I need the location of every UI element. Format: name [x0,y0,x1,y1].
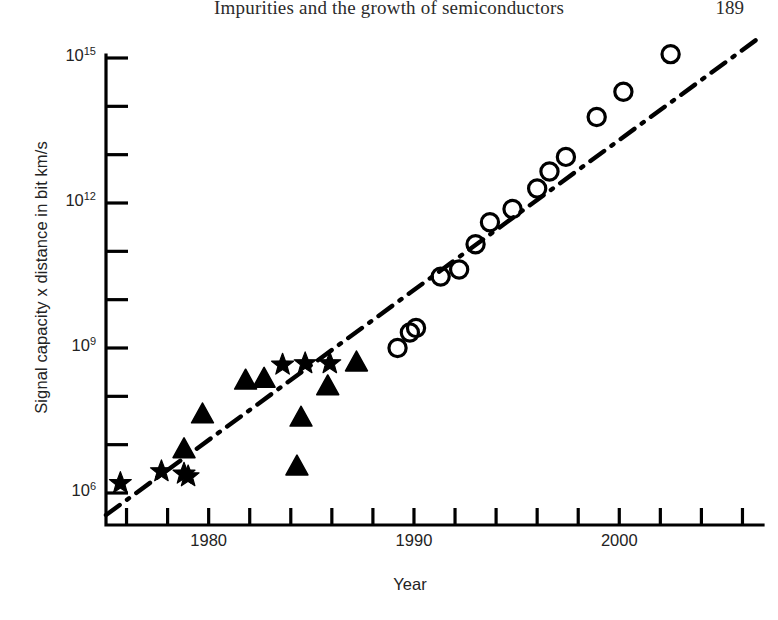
data-point-star [272,353,294,374]
data-point-circle [557,148,574,165]
data-point-triangle [317,375,339,395]
x-tick-label: 1990 [379,531,449,550]
data-point-triangle [253,367,275,387]
y-tick-label: 106 [32,481,96,500]
data-point-triangle [192,403,214,423]
x-axis-title: Year [340,575,480,594]
y-tick-label: 109 [32,336,96,355]
data-point-circle [662,46,679,63]
data-point-circle [541,163,558,180]
plot-canvas [0,0,778,620]
x-tick-label: 2000 [584,531,654,550]
data-point-triangle [286,455,308,475]
data-point-circle [481,214,498,231]
data-point-triangle [290,406,312,426]
data-point-circle [615,83,632,100]
x-axis-ticks [127,508,743,525]
y-tick-label: 1012 [32,191,96,210]
data-point-star [294,352,316,373]
data-point-circle [529,180,546,197]
figure-signal-capacity-chart: Signal capacity x distance in bit km/s Y… [0,0,778,620]
axis-lines [106,55,763,525]
y-axis-ticks [106,58,128,493]
data-point-circle [389,339,406,356]
data-point-circle [451,261,468,278]
data-point-circle [504,200,521,217]
y-axis-title: Signal capacity x distance in bit km/s [32,113,51,443]
data-point-circle [588,108,605,125]
x-tick-label: 1980 [174,531,244,550]
data-point-star [109,472,131,493]
data-point-triangle [173,438,195,458]
y-tick-label: 1015 [32,46,96,65]
data-point-star [177,465,199,486]
triangle-markers [173,351,367,475]
data-point-star [151,460,173,481]
data-point-triangle [346,351,368,371]
